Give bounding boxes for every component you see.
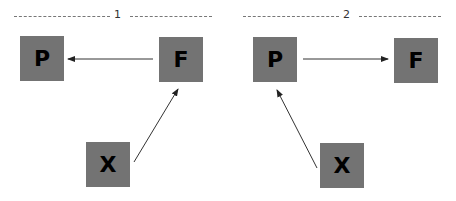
panel-1-node-p: P — [20, 36, 64, 81]
node-label: F — [408, 48, 423, 73]
node-label: P — [267, 47, 283, 72]
panel-1-node-x: X — [86, 142, 130, 187]
edges-layer — [0, 0, 456, 201]
panel-2-node-p: P — [253, 37, 297, 82]
panel-2-node-f: F — [394, 38, 438, 83]
node-label: F — [173, 47, 188, 72]
edge-x-to-f — [134, 89, 178, 162]
node-label: P — [34, 46, 50, 71]
node-label: X — [334, 153, 351, 178]
edge-x-to-p — [277, 90, 317, 168]
panel-1-node-f: F — [159, 37, 203, 82]
node-label: X — [100, 152, 117, 177]
panel-2-node-x: X — [320, 143, 364, 188]
